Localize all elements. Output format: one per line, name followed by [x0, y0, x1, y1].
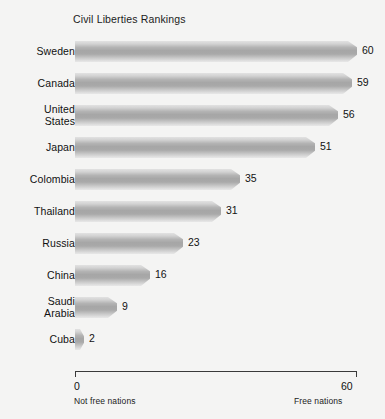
x-axis-note-left: Not free nations [74, 396, 136, 406]
bar [75, 169, 240, 190]
bar-category-label: SaudiArabia [0, 296, 75, 319]
bar-row: Colombia35 [0, 164, 385, 196]
bar-category-label-line: Colombia [0, 174, 75, 186]
bar-fill [75, 297, 117, 318]
bar [75, 41, 357, 62]
bar-category-label: Colombia [0, 174, 75, 186]
x-axis-tick-0 [75, 371, 76, 377]
bar [75, 73, 352, 94]
bar-category-label: Cuba [0, 334, 75, 346]
x-axis-tick-60 [356, 371, 357, 377]
bar-value-label: 59 [357, 76, 369, 88]
x-axis-line [75, 371, 357, 372]
x-axis-label-min: 0 [74, 380, 80, 392]
bar-value-label: 35 [245, 172, 257, 184]
bar-value-label: 9 [122, 300, 128, 312]
bar-category-label-line: Canada [0, 78, 75, 90]
x-axis-note-right: Free nations [294, 396, 342, 406]
bar [75, 137, 315, 158]
bar-fill [75, 137, 315, 158]
bar-fill [75, 41, 357, 62]
bar [75, 329, 84, 350]
bar-row: Japan51 [0, 132, 385, 164]
bar-category-label-line: Arabia [0, 308, 75, 320]
bar-fill [75, 265, 150, 286]
bar-category-label-line: Cuba [0, 334, 75, 346]
bar-row: Cuba2 [0, 324, 385, 356]
bar-value-label: 51 [320, 140, 332, 152]
bar-value-label: 16 [155, 268, 167, 280]
bar-category-label-line: Sweden [0, 46, 75, 58]
plot-area: Sweden60Canada59UnitedStates56Japan51Col… [0, 36, 385, 358]
bar-row: Canada59 [0, 68, 385, 100]
x-axis-label-max: 60 [341, 380, 353, 392]
bar-fill [75, 233, 183, 254]
chart-title: Civil Liberties Rankings [73, 13, 186, 25]
bar-category-label: Canada [0, 78, 75, 90]
bar-category-label: Japan [0, 142, 75, 154]
bar-category-label: UnitedStates [0, 104, 75, 127]
bar-category-label: Thailand [0, 206, 75, 218]
bar-category-label-line: United [0, 104, 75, 116]
bar [75, 105, 338, 126]
bar-row: Sweden60 [0, 36, 385, 68]
bar [75, 297, 117, 318]
bar-category-label: China [0, 270, 75, 282]
bar-category-label-line: Thailand [0, 206, 75, 218]
bar-category-label-line: China [0, 270, 75, 282]
bar-fill [75, 73, 352, 94]
bar-row: China16 [0, 260, 385, 292]
civil-liberties-bar-chart: Civil Liberties Rankings Sweden60Canada5… [0, 0, 385, 419]
bar-row: UnitedStates56 [0, 100, 385, 132]
bar-category-label-line: Saudi [0, 296, 75, 308]
bar-category-label-line: Japan [0, 142, 75, 154]
bar-category-label-line: States [0, 116, 75, 128]
bar-value-label: 23 [188, 236, 200, 248]
bar [75, 233, 183, 254]
bar-value-label: 2 [89, 332, 95, 344]
bar-category-label-line: Russia [0, 238, 75, 250]
bar-category-label: Sweden [0, 46, 75, 58]
bar-value-label: 31 [226, 204, 238, 216]
bar-fill [75, 329, 84, 350]
bar-row: Russia23 [0, 228, 385, 260]
bar [75, 265, 150, 286]
bar-value-label: 60 [362, 44, 374, 56]
bar-fill [75, 105, 338, 126]
bar [75, 201, 221, 222]
bar-fill [75, 169, 240, 190]
bar-fill [75, 201, 221, 222]
bar-category-label: Russia [0, 238, 75, 250]
bar-row: SaudiArabia9 [0, 292, 385, 324]
bar-row: Thailand31 [0, 196, 385, 228]
bar-value-label: 56 [343, 108, 355, 120]
